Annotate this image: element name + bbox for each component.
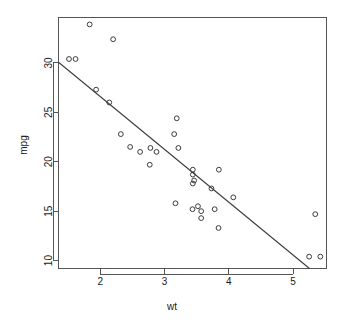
scatter-plot-figure: 1015202530 2345 wt mpg	[0, 0, 346, 329]
x-tick-label: 2	[97, 276, 103, 287]
y-axis-title: mpg	[18, 135, 29, 154]
x-tick-label: 3	[162, 276, 168, 287]
y-tick-label: 20	[43, 156, 54, 168]
x-axis-title: wt	[166, 301, 177, 312]
x-tick-label: 5	[290, 276, 296, 287]
plot-canvas: 1015202530 2345 wt mpg	[0, 0, 346, 329]
x-tick-label: 4	[226, 276, 232, 287]
y-tick-label: 10	[43, 255, 54, 267]
y-tick-label: 15	[43, 205, 54, 217]
y-tick-label: 25	[43, 106, 54, 118]
y-tick-label: 30	[43, 57, 54, 69]
